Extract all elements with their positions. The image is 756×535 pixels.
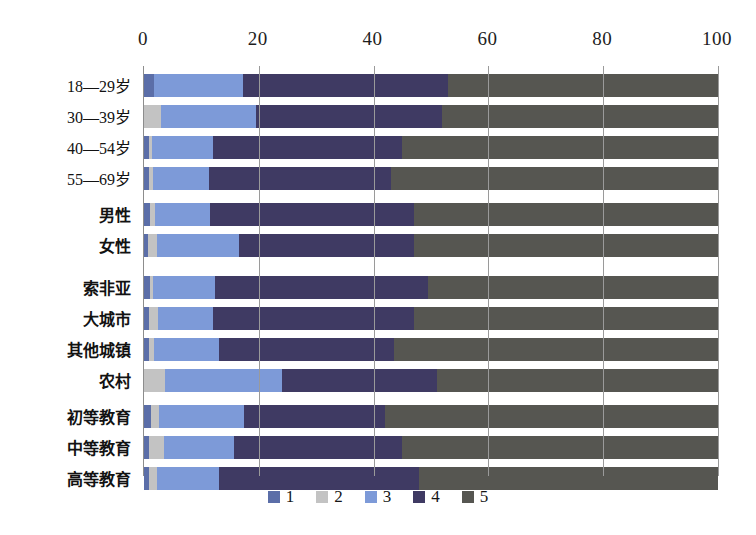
bar-segment-series-1 bbox=[144, 405, 151, 428]
legend-swatch-icon bbox=[462, 491, 474, 503]
category-label: 高等教育 bbox=[67, 472, 131, 488]
bar-segment-series-3 bbox=[155, 203, 210, 226]
bar-row bbox=[144, 234, 718, 257]
x-tick-label-80: 80 bbox=[592, 28, 612, 50]
bar-row bbox=[144, 276, 718, 299]
legend-item-4[interactable]: 4 bbox=[413, 487, 440, 507]
category-label: 18—29岁 bbox=[67, 79, 131, 95]
category-label: 男性 bbox=[99, 208, 131, 224]
bar-segment-series-3 bbox=[161, 105, 256, 128]
bar-segment-series-4 bbox=[215, 276, 428, 299]
legend-item-5[interactable]: 5 bbox=[462, 487, 489, 507]
x-tick-label-0: 0 bbox=[138, 28, 148, 50]
bar-segment-series-3 bbox=[153, 276, 215, 299]
bar-segment-series-3 bbox=[153, 167, 209, 190]
category-label: 55—69岁 bbox=[67, 172, 131, 188]
x-tick-label-40: 40 bbox=[363, 28, 383, 50]
bar-segment-series-2 bbox=[144, 369, 165, 392]
bar-segment-series-5 bbox=[419, 467, 717, 490]
x-tick-label-20: 20 bbox=[248, 28, 268, 50]
legend-label: 2 bbox=[334, 487, 343, 507]
bar-segment-series-3 bbox=[154, 74, 243, 97]
bar-row bbox=[144, 405, 718, 428]
bar-segment-series-5 bbox=[437, 369, 718, 392]
x-tick-label-100: 100 bbox=[702, 28, 732, 50]
category-label: 其他城镇 bbox=[67, 343, 131, 359]
legend-swatch-icon bbox=[365, 491, 377, 503]
bar-row bbox=[144, 167, 718, 190]
bar-segment-series-5 bbox=[414, 234, 718, 257]
category-label: 40—54岁 bbox=[67, 141, 131, 157]
bar-segment-series-1 bbox=[144, 74, 154, 97]
bar-segment-series-3 bbox=[157, 467, 219, 490]
bar-segment-series-4 bbox=[209, 167, 391, 190]
bar-segment-series-4 bbox=[219, 338, 395, 361]
legend-swatch-icon bbox=[316, 491, 328, 503]
bar-segment-series-2 bbox=[148, 234, 157, 257]
category-axis-labels: 18—29岁30—39岁40—54岁55—69岁男性女性索非亚大城市其他城镇农村… bbox=[0, 66, 137, 476]
plot-area bbox=[143, 66, 718, 476]
bar-segment-series-4 bbox=[210, 203, 414, 226]
bar-row bbox=[144, 203, 718, 226]
bar-segment-series-3 bbox=[165, 369, 282, 392]
bar-row bbox=[144, 307, 718, 330]
bar-segment-series-3 bbox=[157, 234, 239, 257]
bar-segment-series-3 bbox=[164, 436, 235, 459]
bar-row bbox=[144, 136, 718, 159]
bar-segment-series-4 bbox=[213, 307, 414, 330]
bar-segment-series-5 bbox=[394, 338, 718, 361]
legend-label: 5 bbox=[480, 487, 489, 507]
bar-row bbox=[144, 105, 718, 128]
bar-segment-series-2 bbox=[149, 436, 164, 459]
bar-row bbox=[144, 369, 718, 392]
category-label: 农村 bbox=[99, 374, 131, 390]
bar-segment-series-4 bbox=[239, 234, 414, 257]
legend-swatch-icon bbox=[413, 491, 425, 503]
bar-segment-series-3 bbox=[154, 338, 218, 361]
bar-row bbox=[144, 338, 718, 361]
bar-segment-series-5 bbox=[391, 167, 718, 190]
x-tick-label-60: 60 bbox=[477, 28, 497, 50]
stacked-bar-chart: 020406080100 18—29岁30—39岁40—54岁55—69岁男性女… bbox=[0, 0, 756, 535]
bar-row bbox=[144, 436, 718, 459]
bar-row bbox=[144, 74, 718, 97]
category-label: 中等教育 bbox=[67, 441, 131, 457]
bar-rows bbox=[144, 66, 718, 476]
category-label: 大城市 bbox=[83, 312, 131, 328]
legend-label: 1 bbox=[286, 487, 295, 507]
category-label: 索非亚 bbox=[83, 281, 131, 297]
bar-segment-series-5 bbox=[414, 307, 718, 330]
bar-segment-series-3 bbox=[159, 405, 244, 428]
bar-segment-series-3 bbox=[152, 136, 213, 159]
bar-segment-series-3 bbox=[158, 307, 213, 330]
legend-label: 3 bbox=[383, 487, 392, 507]
bar-segment-series-5 bbox=[402, 136, 718, 159]
bar-segment-series-2 bbox=[151, 405, 158, 428]
bar-segment-series-4 bbox=[234, 436, 402, 459]
bar-segment-series-2 bbox=[149, 467, 156, 490]
bar-segment-series-5 bbox=[414, 203, 718, 226]
bar-segment-series-5 bbox=[385, 405, 718, 428]
bar-segment-series-2 bbox=[149, 307, 158, 330]
bar-segment-series-5 bbox=[442, 105, 718, 128]
bar-segment-series-5 bbox=[428, 276, 718, 299]
bar-segment-series-4 bbox=[244, 405, 385, 428]
bar-segment-series-4 bbox=[213, 136, 402, 159]
legend-swatch-icon bbox=[268, 491, 280, 503]
legend-item-2[interactable]: 2 bbox=[316, 487, 343, 507]
category-label: 初等教育 bbox=[67, 410, 131, 426]
bar-segment-series-4 bbox=[219, 467, 420, 490]
bar-segment-series-2 bbox=[144, 105, 161, 128]
chart-legend: 12345 bbox=[0, 487, 756, 507]
legend-item-1[interactable]: 1 bbox=[268, 487, 295, 507]
bar-segment-series-5 bbox=[448, 74, 718, 97]
category-label: 30—39岁 bbox=[67, 110, 131, 126]
legend-label: 4 bbox=[431, 487, 440, 507]
bar-segment-series-4 bbox=[243, 74, 448, 97]
legend-item-3[interactable]: 3 bbox=[365, 487, 392, 507]
category-label: 女性 bbox=[99, 239, 131, 255]
bar-segment-series-5 bbox=[402, 436, 718, 459]
bar-segment-series-4 bbox=[282, 369, 437, 392]
x-axis: 020406080100 bbox=[143, 28, 717, 62]
gridline-100 bbox=[718, 66, 719, 476]
